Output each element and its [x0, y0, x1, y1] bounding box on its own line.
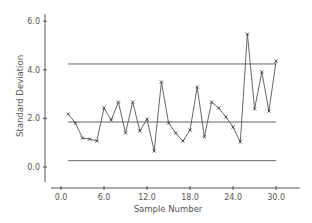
y-tick-label: 4.0 [27, 66, 40, 75]
x-axis-label: Sample Number [134, 204, 203, 214]
control-chart: 0.02.04.06.0 0.06.012.018.024.030.0 Samp… [0, 0, 312, 223]
x-tick-label: 30.0 [267, 193, 285, 202]
x-tick-label: 24.0 [224, 193, 242, 202]
data-series [67, 32, 278, 152]
x-tick-label: 12.0 [138, 193, 156, 202]
data-point-marker [231, 126, 234, 129]
y-axis-label: Standard Deviation [15, 55, 25, 137]
data-point-marker [181, 139, 184, 142]
x-tick-label: 0.0 [55, 193, 68, 202]
series-line [68, 34, 276, 151]
data-point-marker [217, 106, 220, 109]
y-tick-label: 0.0 [27, 163, 40, 172]
data-point-marker [224, 115, 227, 118]
x-tick-label: 18.0 [181, 193, 199, 202]
x-axis: 0.06.012.018.024.030.0 [51, 186, 300, 202]
data-point-marker [174, 131, 177, 134]
y-tick-label: 6.0 [27, 17, 40, 26]
data-point-marker [67, 112, 70, 115]
y-tick-label: 2.0 [27, 114, 40, 123]
y-axis: 0.02.04.06.0 [27, 14, 47, 182]
x-tick-label: 6.0 [98, 193, 111, 202]
